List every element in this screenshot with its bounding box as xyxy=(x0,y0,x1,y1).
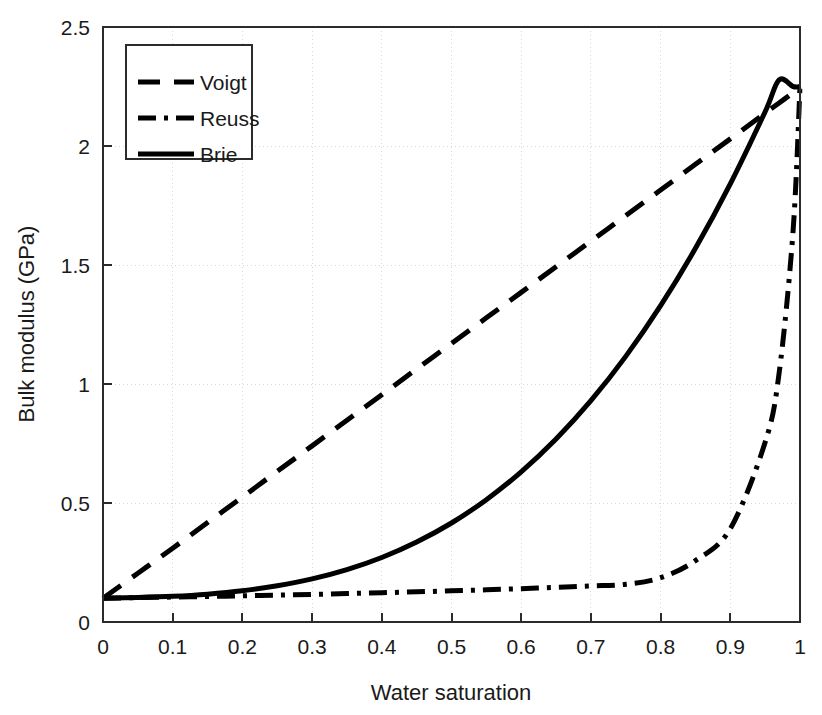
x-tick-label: 0.1 xyxy=(158,635,187,658)
y-tick-label: 2 xyxy=(78,135,90,158)
y-tick-label: 2.5 xyxy=(61,16,90,39)
x-tick-label: 0.8 xyxy=(646,635,675,658)
y-tick-label: 0 xyxy=(78,611,90,634)
y-tick-label: 0.5 xyxy=(61,492,90,515)
x-axis-title: Water saturation xyxy=(371,680,532,705)
y-tick-label: 1.5 xyxy=(61,254,90,277)
x-tick-label: 0.9 xyxy=(716,635,745,658)
legend-box xyxy=(126,45,252,159)
y-tick-label: 1 xyxy=(78,373,90,396)
legend-label-voigt: Voigt xyxy=(200,71,247,94)
x-tick-label: 0.2 xyxy=(228,635,257,658)
x-tick-label: 0.7 xyxy=(576,635,605,658)
chart-legend: VoigtReussBrie xyxy=(126,45,260,166)
y-axis-title: Bulk modulus (GPa) xyxy=(14,226,39,423)
x-tick-label: 0.6 xyxy=(507,635,536,658)
x-tick-label: 0 xyxy=(97,635,109,658)
x-tick-label: 0.3 xyxy=(297,635,326,658)
x-tick-label: 0.4 xyxy=(367,635,397,658)
legend-label-reuss: Reuss xyxy=(200,107,260,130)
x-tick-label: 1 xyxy=(794,635,806,658)
bulk-modulus-line-chart: 00.10.20.30.40.50.60.70.80.91 00.511.522… xyxy=(0,0,822,715)
chart-figure: 00.10.20.30.40.50.60.70.80.91 00.511.522… xyxy=(0,0,822,715)
legend-label-brie: Brie xyxy=(200,143,237,166)
x-tick-label: 0.5 xyxy=(437,635,466,658)
figure-background xyxy=(0,0,822,715)
